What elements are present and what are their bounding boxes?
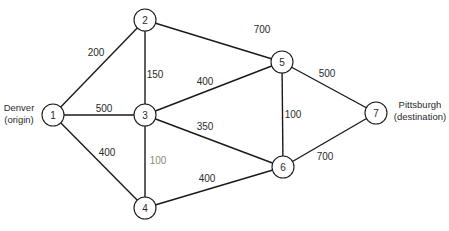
destination-label-line1: Pittsburgh — [399, 99, 442, 110]
node-4: 4 — [134, 197, 156, 219]
edge-weight-3-4: 100 — [150, 155, 167, 166]
node-2: 2 — [134, 9, 156, 31]
node-1: 1 — [42, 104, 64, 126]
edge-weight-1-4: 400 — [99, 147, 116, 158]
node-label: 3 — [142, 110, 148, 121]
edge-weight-2-5: 700 — [254, 24, 271, 35]
node-label: 2 — [142, 15, 148, 26]
origin-label-line2: (origin) — [4, 114, 34, 125]
node-label: 6 — [280, 162, 286, 173]
node-5: 5 — [271, 51, 293, 73]
node-label: 1 — [50, 110, 56, 121]
edge-1-2 — [53, 20, 145, 115]
node-label: 4 — [142, 203, 148, 214]
edge-weight-1-3: 500 — [96, 103, 113, 114]
node-7: 7 — [365, 102, 387, 124]
edge-weight-5-7: 500 — [319, 68, 336, 79]
node-3: 3 — [134, 104, 156, 126]
edge-weight-1-2: 200 — [88, 47, 105, 58]
destination-label-line2: (destination) — [394, 111, 446, 122]
edge-weight-3-5: 400 — [197, 76, 214, 87]
edge-3-5 — [145, 62, 282, 115]
node-6: 6 — [272, 156, 294, 178]
edge-1-4 — [53, 115, 145, 208]
edge-weight-6-7: 700 — [317, 151, 334, 162]
network-diagram: 200500400150700400350100100500400700 123… — [0, 0, 449, 231]
edge-5-6 — [282, 62, 283, 167]
node-label: 7 — [373, 108, 379, 119]
edge-labels-layer: 200500400150700400350100100500400700 — [88, 24, 336, 184]
node-label: 5 — [279, 57, 285, 68]
edge-weight-5-6: 100 — [285, 109, 302, 120]
edge-weight-3-6: 350 — [197, 121, 214, 132]
edge-weight-4-6: 400 — [199, 173, 216, 184]
origin-label-line1: Denver — [4, 102, 35, 113]
edge-weight-2-3: 150 — [147, 69, 164, 80]
